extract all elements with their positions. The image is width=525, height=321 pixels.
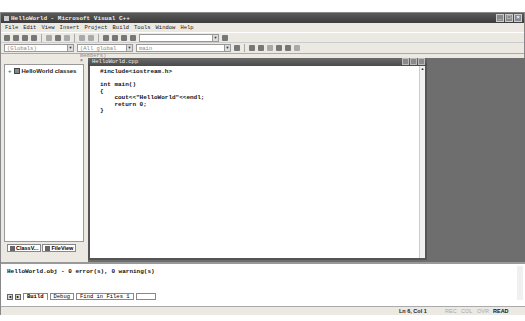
find-combo[interactable]: ▼ [139, 34, 219, 42]
output-pane: HelloWorld.obj - 0 error(s), 0 warning(s… [1, 262, 525, 306]
menu-help[interactable]: Help [180, 24, 193, 31]
maximize-button[interactable]: □ [505, 14, 513, 22]
tab-build[interactable]: Build [23, 293, 48, 300]
editor-minimize-button[interactable] [402, 58, 409, 65]
cut-icon[interactable] [46, 35, 52, 41]
close-icon[interactable]: × [80, 57, 83, 63]
chevron-down-icon[interactable]: ▼ [212, 35, 218, 41]
editor-title: HelloWorld.cpp [92, 58, 138, 65]
classes-icon [14, 68, 20, 74]
horizontal-scrollbar[interactable] [136, 293, 156, 300]
menu-window[interactable]: Window [156, 24, 176, 31]
chevron-down-icon[interactable]: ▼ [224, 45, 230, 51]
menu-project[interactable]: Project [84, 24, 107, 31]
classview-icon [10, 246, 15, 251]
menu-file[interactable]: File [5, 24, 18, 31]
separator [98, 34, 99, 42]
save-all-icon[interactable] [31, 35, 37, 41]
window-title: HelloWorld - Microsoft Visual C++ [11, 15, 130, 22]
menu-insert[interactable]: Insert [60, 24, 80, 31]
chevron-down-icon[interactable]: ▼ [126, 45, 132, 51]
chevron-down-icon[interactable]: ▼ [67, 45, 73, 51]
tab-debug[interactable]: Debug [50, 293, 75, 300]
minimize-button[interactable]: _ [496, 14, 504, 22]
compile-icon[interactable] [249, 45, 255, 51]
go-icon[interactable] [285, 45, 291, 51]
tab-classview[interactable]: ClassV... [7, 244, 41, 252]
ovr-indicator: OVR [477, 308, 489, 314]
code-line: } [100, 108, 425, 115]
separator [244, 44, 245, 52]
execute-icon[interactable] [276, 45, 282, 51]
col-indicator: COL [461, 308, 472, 314]
breakpoint-icon[interactable] [294, 45, 300, 51]
wizard-action-icon[interactable] [234, 45, 240, 51]
stop-build-icon[interactable] [267, 45, 273, 51]
output-tabs: ◀ ▶ Build Debug Find in Files 1 [7, 293, 156, 300]
tree-item[interactable]: + HelloWorld classes [8, 68, 76, 74]
scroll-up-icon[interactable]: ▲ [420, 66, 425, 72]
mdi-client-area: HelloWorld.cpp #include<iostream.h> int … [88, 58, 525, 262]
wizard-bar: (Globals) ▼ (All global members) ▼ main … [1, 43, 524, 54]
read-indicator: READ [493, 308, 509, 314]
build-icon[interactable] [258, 45, 264, 51]
app-window: HelloWorld - Microsoft Visual C++ _ □ × … [0, 12, 525, 315]
standard-toolbar: ▼ [1, 32, 524, 43]
expand-icon[interactable]: + [8, 68, 12, 74]
menu-build[interactable]: Build [113, 24, 130, 31]
workspace-pane: × + HelloWorld classes ClassV... FileVie… [4, 58, 86, 260]
tab-fileview[interactable]: FileView [42, 244, 76, 252]
separator [41, 34, 42, 42]
status-bar: Ln 6, Col 1 REC COL OVR READ [1, 306, 525, 315]
editor-maximize-button[interactable] [410, 58, 417, 65]
find-icon[interactable] [222, 35, 228, 41]
fileview-icon [45, 246, 50, 251]
redo-icon[interactable] [88, 35, 94, 41]
tab-find-in-files-1[interactable]: Find in Files 1 [76, 293, 134, 300]
tab-scroll-right-icon[interactable]: ▶ [15, 294, 21, 300]
menu-bar: File Edit View Insert Project Build Tool… [1, 23, 524, 32]
separator [74, 34, 75, 42]
cursor-position: Ln 6, Col 1 [399, 308, 427, 314]
tab-scroll-left-icon[interactable]: ◀ [7, 294, 13, 300]
class-combo[interactable]: (Globals) ▼ [4, 44, 74, 52]
app-icon [4, 16, 9, 21]
paste-icon[interactable] [64, 35, 70, 41]
class-tree: + HelloWorld classes [4, 64, 84, 242]
title-bar: HelloWorld - Microsoft Visual C++ _ □ × [1, 13, 524, 23]
menu-tools[interactable]: Tools [134, 24, 151, 31]
menu-view[interactable]: View [41, 24, 54, 31]
member-combo[interactable]: (All global members) ▼ [77, 44, 133, 52]
open-folder-icon[interactable] [13, 35, 19, 41]
close-button[interactable]: × [514, 14, 522, 22]
workspace-icon[interactable] [103, 35, 109, 41]
function-combo[interactable]: main ▼ [136, 44, 231, 52]
copy-icon[interactable] [55, 35, 61, 41]
undo-icon[interactable] [79, 35, 85, 41]
output-window-icon[interactable] [112, 35, 118, 41]
build-output: HelloWorld.obj - 0 error(s), 0 warning(s… [7, 268, 155, 282]
editor-scrollbar[interactable]: ▲ [419, 66, 425, 258]
rec-indicator: REC [445, 308, 457, 314]
window-list-icon[interactable] [121, 35, 127, 41]
output-scrollbar[interactable] [517, 266, 523, 300]
new-file-icon[interactable] [4, 35, 10, 41]
find-in-files-icon[interactable] [130, 35, 136, 41]
menu-edit[interactable]: Edit [23, 24, 36, 31]
code-editor[interactable]: #include<iostream.h> int main(){ cout<<"… [90, 66, 425, 115]
save-icon[interactable] [22, 35, 28, 41]
editor-title-bar: HelloWorld.cpp [88, 58, 427, 66]
editor-close-button[interactable] [418, 58, 425, 65]
editor-window: HelloWorld.cpp #include<iostream.h> int … [88, 58, 427, 260]
